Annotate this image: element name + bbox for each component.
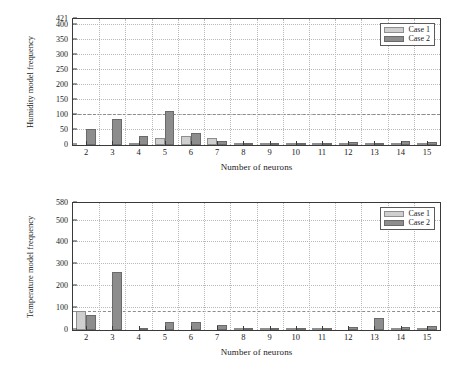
x-axis-tick-label: 2 — [84, 333, 88, 342]
humidity-legend: Case 1 Case 2 — [380, 23, 435, 46]
x-axis-tick-mark — [139, 141, 140, 145]
x-axis-tick-mark — [112, 141, 113, 145]
y-axis-tick-mark — [73, 241, 77, 242]
y-axis-tick-mark — [73, 18, 77, 19]
bar-case-2-13 — [374, 318, 384, 330]
temperature-legend: Case 1 Case 2 — [380, 207, 435, 230]
bar-case-1-11 — [312, 143, 322, 145]
legend-entry-case1: Case 1 — [384, 26, 430, 34]
bar-case-1-11 — [312, 328, 322, 330]
x-axis-tick-mark — [296, 326, 297, 330]
y-axis-tick-label: 150 — [56, 96, 73, 104]
bar-case-2-2 — [86, 315, 96, 330]
x-axis-tick-label: 14 — [396, 333, 405, 342]
temperature-y-axis-title: Temperature model frequency — [26, 207, 36, 327]
legend-entry-case1: Case 1 — [384, 210, 430, 218]
legend-label-case1: Case 1 — [408, 210, 430, 218]
x-axis-tick-label: 11 — [318, 148, 326, 157]
x-axis-tick-mark — [270, 326, 271, 330]
x-axis-tick-mark — [191, 141, 192, 145]
x-axis-tick-label: 11 — [318, 333, 326, 342]
bar-case-1-12 — [339, 143, 349, 145]
y-axis-tick-mark — [73, 307, 77, 308]
x-axis-tick-label: 6 — [189, 333, 193, 342]
bar-case-1-14 — [391, 143, 401, 145]
y-axis-tick-label: 100 — [56, 111, 73, 119]
bar-case-2-3 — [112, 119, 122, 145]
bar-case-2-9 — [270, 143, 280, 145]
bar-case-2-3 — [112, 272, 122, 330]
y-axis-tick-mark — [73, 285, 77, 286]
humidity-y-axis-title: Humidity model frequency — [26, 22, 36, 142]
y-axis-tick-label: 50 — [60, 126, 73, 134]
bar-case-2-7 — [217, 141, 227, 145]
bar-case-2-6 — [191, 133, 201, 145]
x-axis-tick-mark — [348, 141, 349, 145]
bar-case-1-15 — [417, 143, 427, 145]
bar-case-2-14 — [401, 141, 411, 145]
x-axis-tick-label: 15 — [423, 148, 432, 157]
bar-case-1-9 — [260, 328, 270, 330]
y-axis-tick-label: 300 — [56, 260, 73, 268]
y-axis-tick-label: 100 — [56, 304, 73, 312]
legend-swatch-case2 — [384, 220, 404, 226]
x-axis-tick-label: 13 — [370, 333, 379, 342]
y-axis-tick-mark — [73, 129, 77, 130]
x-axis-tick-mark — [427, 326, 428, 330]
x-axis-tick-mark — [296, 141, 297, 145]
x-axis-tick-label: 5 — [163, 148, 167, 157]
y-axis-tick-mark — [73, 24, 77, 25]
bar-case-1-14 — [391, 328, 401, 330]
x-axis-tick-label: 12 — [344, 148, 353, 157]
bar-case-2-14 — [401, 327, 411, 330]
bar-case-2-10 — [296, 143, 306, 145]
temperature-chart-panel: Temperature model frequency 010020030040… — [0, 185, 457, 370]
y-axis-tick-mark — [73, 144, 77, 145]
bar-case-2-9 — [270, 328, 280, 330]
x-axis-tick-label: 8 — [241, 148, 245, 157]
x-axis-tick-label: 2 — [84, 148, 88, 157]
legend-label-case1: Case 1 — [408, 26, 430, 34]
bar-case-2-12 — [348, 327, 358, 331]
bar-case-2-5 — [165, 322, 175, 330]
x-axis-tick-label: 15 — [423, 333, 432, 342]
bar-case-2-4 — [139, 328, 149, 330]
bar-case-1-2 — [76, 311, 86, 330]
bar-case-1-4 — [129, 143, 139, 145]
x-axis-tick-mark — [217, 326, 218, 330]
legend-entry-case2: Case 2 — [384, 35, 430, 43]
bar-case-2-2 — [86, 129, 96, 145]
bar-case-2-12 — [348, 142, 358, 145]
y-axis-tick-label: 421 — [56, 15, 73, 23]
x-axis-tick-label: 4 — [136, 333, 140, 342]
y-axis-tick-label: 250 — [56, 66, 73, 74]
y-axis-tick-label: 400 — [56, 238, 73, 246]
x-axis-tick-label: 9 — [267, 148, 271, 157]
bar-case-1-8 — [234, 328, 244, 330]
legend-label-case2: Case 2 — [408, 219, 430, 227]
bar-case-2-4 — [139, 136, 149, 145]
bar-case-2-11 — [322, 328, 332, 330]
bar-case-2-15 — [427, 326, 437, 330]
y-axis-tick-mark — [73, 39, 77, 40]
bar-case-1-10 — [286, 328, 296, 330]
bar-case-2-5 — [165, 111, 175, 145]
y-axis-tick-mark — [73, 99, 77, 100]
y-axis-tick-mark — [73, 219, 77, 220]
x-axis-tick-mark — [139, 326, 140, 330]
humidity-x-axis-title: Number of neurons — [72, 162, 441, 172]
x-axis-tick-mark — [191, 326, 192, 330]
x-axis-tick-label: 8 — [241, 333, 245, 342]
x-axis-tick-label: 7 — [215, 333, 219, 342]
x-axis-tick-label: 10 — [292, 148, 301, 157]
bar-case-1-10 — [286, 143, 296, 145]
bar-case-1-7 — [207, 138, 217, 145]
x-axis-tick-label: 13 — [370, 148, 379, 157]
bar-case-1-9 — [260, 143, 270, 145]
bar-case-1-13 — [365, 143, 375, 145]
x-axis-tick-mark — [270, 141, 271, 145]
x-axis-tick-mark — [86, 326, 87, 330]
legend-swatch-case1 — [384, 211, 404, 217]
temperature-x-axis-title: Number of neurons — [72, 347, 441, 357]
x-axis-tick-label: 3 — [110, 148, 114, 157]
